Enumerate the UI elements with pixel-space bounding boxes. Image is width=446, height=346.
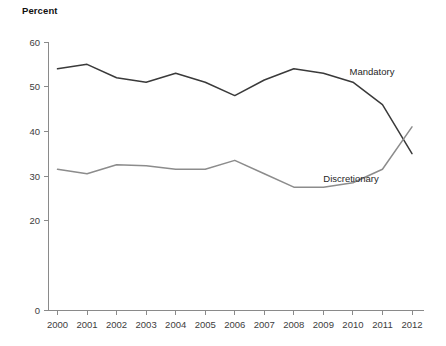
x-tick-label: 2002: [106, 319, 127, 330]
x-tick-label: 2000: [47, 319, 68, 330]
x-tick-label: 2007: [254, 319, 275, 330]
series-label-discretionary: Discretionary: [323, 173, 379, 184]
chart-container: Percent 02030405060 20002001200220032004…: [0, 0, 446, 346]
x-axis-ticks: 2000200120022003200420052006200720082009…: [47, 311, 423, 331]
x-tick-label: 2012: [401, 319, 422, 330]
x-tick-label: 2010: [342, 319, 363, 330]
line-chart-svg: 02030405060 2000200120022003200420052006…: [0, 0, 446, 346]
x-tick-label: 2004: [165, 319, 186, 330]
x-tick-label: 2011: [372, 319, 392, 330]
x-axis: 2000200120022003200420052006200720082009…: [47, 311, 424, 331]
x-tick-label: 2003: [136, 319, 157, 330]
series-line-mandatory: [58, 64, 413, 153]
y-tick-label: 60: [29, 37, 40, 48]
x-tick-label: 2001: [76, 319, 97, 330]
y-tick-label: 30: [29, 171, 40, 182]
y-axis: 02030405060: [29, 37, 48, 316]
x-tick-label: 2008: [283, 319, 304, 330]
y-tick-label: 40: [29, 126, 40, 137]
x-tick-label: 2006: [224, 319, 245, 330]
y-tick-label: 50: [29, 81, 40, 92]
y-tick-label: 20: [29, 215, 40, 226]
data-series-group: [58, 64, 413, 187]
x-tick-label: 2005: [195, 319, 216, 330]
y-axis-ticks: 02030405060: [29, 37, 48, 316]
series-label-mandatory: Mandatory: [350, 66, 395, 77]
x-tick-label: 2009: [313, 319, 334, 330]
y-tick-label: 0: [35, 305, 40, 316]
